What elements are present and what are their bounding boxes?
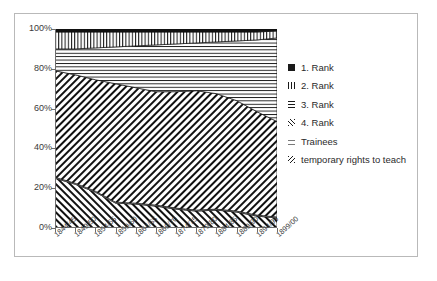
y-axis-labels: 0%20%40%60%80%100% <box>14 29 52 228</box>
chart-legend: 1. Rank2. Rank3. Rank4. RankTraineestemp… <box>288 58 428 169</box>
y-axis-label: 60% <box>34 104 52 113</box>
legend-swatch-icon <box>288 64 295 71</box>
y-axis-label: 20% <box>34 183 52 192</box>
legend-label: Trainees <box>301 137 338 147</box>
legend-swatch-icon <box>288 138 295 145</box>
legend-label: 2. Rank <box>301 81 334 91</box>
legend-swatch-icon <box>288 119 295 126</box>
legend-label: 3. Rank <box>301 100 334 110</box>
legend-swatch-icon <box>288 156 295 163</box>
legend-item[interactable]: 1. Rank <box>288 58 428 77</box>
y-axis-label: 80% <box>34 64 52 73</box>
legend-label: temporary rights to teach <box>301 155 406 165</box>
legend-label: 4. Rank <box>301 118 334 128</box>
legend-label: 1. Rank <box>301 63 334 73</box>
legend-item[interactable]: 3. Rank <box>288 95 428 114</box>
y-axis-label: 40% <box>34 143 52 152</box>
y-axis-label: 100% <box>29 24 52 33</box>
legend-item[interactable]: 4. Rank <box>288 114 428 133</box>
legend-item[interactable]: Trainees <box>288 132 428 151</box>
x-axis-labels: 1844/451849/501854/551859/601864/651869/… <box>55 231 283 277</box>
legend-swatch-icon <box>288 82 295 89</box>
stacked-areas <box>55 29 277 228</box>
legend-item[interactable]: temporary rights to teach <box>288 151 428 170</box>
chart-screenshot: 0%20%40%60%80%100% 1844/451849/501854/55… <box>0 0 437 281</box>
legend-item[interactable]: 2. Rank <box>288 77 428 96</box>
legend-swatch-icon <box>288 101 295 108</box>
area-series <box>55 29 277 32</box>
plot-area <box>55 29 277 228</box>
area-series-svg <box>55 29 277 228</box>
